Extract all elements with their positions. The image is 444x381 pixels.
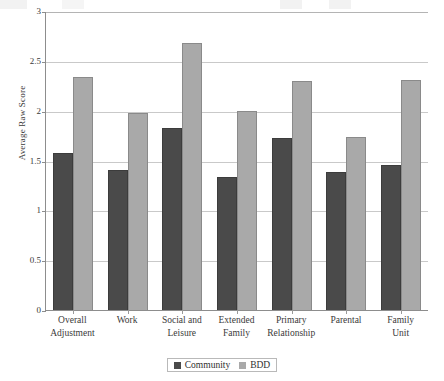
bar-group bbox=[162, 12, 202, 310]
x-axis-label-4: PrimaryRelationship bbox=[264, 314, 319, 354]
x-axis-label-0: OverallAdjustment bbox=[45, 314, 100, 354]
legend-label: Community bbox=[185, 360, 230, 370]
x-label-line1: Work bbox=[117, 315, 138, 325]
y-tick-label: 1.5 bbox=[16, 156, 41, 166]
y-tick-label: 2 bbox=[16, 106, 41, 116]
y-axis-title: Average Raw Score bbox=[17, 57, 27, 189]
bar-bdd-1 bbox=[128, 113, 148, 310]
x-axis-label-1: Work bbox=[100, 314, 155, 354]
legend-item-bdd[interactable]: BDD bbox=[239, 360, 270, 370]
x-label-line2: Adjustment bbox=[45, 327, 100, 340]
bar-group bbox=[108, 12, 148, 310]
bar-community-1 bbox=[108, 170, 128, 310]
bar-bdd-4 bbox=[292, 81, 312, 310]
bar-bdd-6 bbox=[401, 80, 421, 310]
bar-groups bbox=[46, 12, 428, 310]
bar-community-0 bbox=[53, 153, 73, 310]
plot-area: 00.511.522.53 bbox=[45, 12, 428, 311]
x-axis-label-5: Parental bbox=[319, 314, 374, 354]
x-label-line1: Overall bbox=[58, 315, 87, 325]
bar-group bbox=[326, 12, 366, 310]
x-label-line2: Family bbox=[209, 327, 264, 340]
bar-community-3 bbox=[217, 177, 237, 310]
bar-bdd-2 bbox=[182, 43, 202, 310]
bar-group bbox=[53, 12, 93, 310]
bar-group bbox=[272, 12, 312, 310]
bar-community-2 bbox=[162, 128, 182, 310]
legend-item-community[interactable]: Community bbox=[174, 360, 230, 370]
x-label-line2: Relationship bbox=[264, 327, 319, 340]
x-label-line2: Unit bbox=[373, 327, 428, 340]
x-label-line1: Parental bbox=[330, 315, 361, 325]
y-tick-label: 0.5 bbox=[16, 255, 41, 265]
bar-chart-figure: Average Raw Score 00.511.522.53 OverallA… bbox=[0, 0, 444, 381]
x-label-line1: Extended bbox=[219, 315, 255, 325]
x-axis-label-6: FamilyUnit bbox=[373, 314, 428, 354]
legend-box: CommunityBDD bbox=[167, 358, 277, 372]
y-tick-mark bbox=[42, 311, 46, 312]
bar-group bbox=[217, 12, 257, 310]
scan-artifact bbox=[0, 0, 444, 9]
x-label-line1: Social and bbox=[162, 315, 202, 325]
bar-community-5 bbox=[326, 172, 346, 310]
y-tick-label: 0 bbox=[16, 305, 41, 315]
y-tick-label: 1 bbox=[16, 205, 41, 215]
x-axis-label-3: ExtendedFamily bbox=[209, 314, 264, 354]
x-label-line1: Family bbox=[387, 315, 414, 325]
legend-label: BDD bbox=[250, 360, 270, 370]
x-label-line1: Primary bbox=[276, 315, 307, 325]
bar-bdd-3 bbox=[237, 111, 257, 310]
bar-community-4 bbox=[272, 138, 292, 310]
bar-bdd-5 bbox=[346, 137, 366, 310]
bar-bdd-0 bbox=[73, 77, 93, 310]
x-axis-labels: OverallAdjustmentWorkSocial andLeisureEx… bbox=[45, 314, 428, 354]
x-label-line2: Leisure bbox=[154, 327, 209, 340]
legend-swatch-icon bbox=[239, 362, 246, 369]
y-tick-label: 3 bbox=[16, 6, 41, 16]
bar-community-6 bbox=[381, 165, 401, 310]
chart-legend: CommunityBDD bbox=[0, 358, 444, 372]
legend-swatch-icon bbox=[174, 362, 181, 369]
bar-group bbox=[381, 12, 421, 310]
y-tick-label: 2.5 bbox=[16, 56, 41, 66]
x-axis-label-2: Social andLeisure bbox=[154, 314, 209, 354]
